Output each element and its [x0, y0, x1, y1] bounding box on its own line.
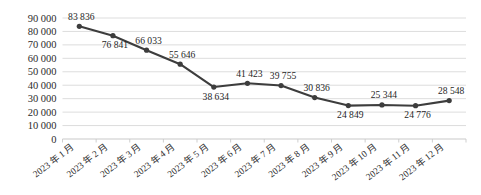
- chart-canvas: 010 00020 00030 00040 00050 00060 00070 …: [0, 0, 481, 195]
- data-point-marker: [77, 24, 82, 29]
- data-point-marker: [110, 33, 115, 38]
- x-axis-tick-labels: 2023 年 1 月2023 年 2 月2023 年 3 月2023 年 4 月…: [31, 141, 446, 182]
- data-point-label: 24 776: [404, 109, 431, 120]
- data-point-label: 30 836: [303, 82, 330, 93]
- y-axis-tick-label: 40 000: [28, 80, 57, 91]
- data-point-label: 25 344: [371, 89, 398, 100]
- data-point-label: 66 033: [135, 35, 162, 46]
- y-axis-tick-label: 10 000: [28, 120, 57, 131]
- data-point-label: 55 646: [169, 49, 196, 60]
- data-point-marker: [447, 98, 452, 103]
- y-axis-tick-label: 50 000: [28, 66, 57, 77]
- data-point-marker: [245, 81, 250, 86]
- data-point-labels: 83 83676 84166 03355 64638 63441 42339 7…: [68, 11, 464, 120]
- gridlines-group: [63, 18, 467, 139]
- y-axis-tick-label: 90 000: [28, 13, 57, 24]
- data-point-marker: [379, 102, 384, 107]
- y-axis-tick-label: 30 000: [28, 93, 57, 104]
- y-axis-tick-labels: 010 00020 00030 00040 00050 00060 00070 …: [28, 13, 57, 145]
- line-chart: 010 00020 00030 00040 00050 00060 00070 …: [0, 0, 481, 195]
- data-point-label: 83 836: [68, 11, 95, 22]
- data-point-marker: [211, 84, 216, 89]
- data-point-label: 28 548: [438, 85, 465, 96]
- data-point-marker: [178, 62, 183, 67]
- y-axis-tick-label: 20 000: [28, 107, 57, 118]
- data-point-label: 24 849: [337, 109, 364, 120]
- y-axis-tick-label: 0: [51, 134, 56, 145]
- y-axis-tick-label: 70 000: [28, 39, 57, 50]
- data-point-marker: [312, 95, 317, 100]
- data-point-marker: [346, 103, 351, 108]
- data-point-label: 38 634: [203, 91, 230, 102]
- data-point-marker: [144, 48, 149, 53]
- data-point-marker: [278, 83, 283, 88]
- data-point-label: 39 755: [270, 70, 297, 81]
- data-point-label: 76 841: [102, 39, 129, 50]
- data-point-marker: [413, 103, 418, 108]
- data-point-label: 41 423: [236, 68, 263, 79]
- y-axis-tick-label: 60 000: [28, 53, 57, 64]
- y-axis-tick-label: 80 000: [28, 26, 57, 37]
